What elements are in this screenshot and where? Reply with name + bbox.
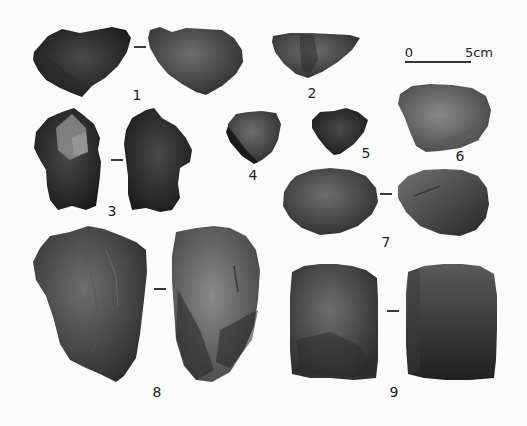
view-separator-8	[154, 288, 166, 290]
artifact-3-view-b	[124, 108, 192, 212]
artifact-7-view-b	[398, 169, 489, 236]
artifact-8-view-a	[33, 226, 147, 382]
view-separator-7	[380, 193, 392, 195]
view-separator-1	[134, 46, 146, 48]
artifact-2	[272, 33, 360, 78]
artifact-6	[398, 84, 491, 152]
artifact-label-2: 2	[308, 86, 317, 100]
view-separator-3	[111, 159, 123, 161]
artifact-8	[33, 226, 260, 382]
scale-start-label: 0	[405, 46, 413, 59]
artifact-4	[226, 111, 281, 164]
artifact-label-8: 8	[153, 385, 162, 399]
artifact-7-view-a	[283, 168, 378, 235]
artifact-label-9: 9	[390, 385, 399, 399]
artifact-photos	[0, 0, 527, 426]
artifact-label-3: 3	[108, 204, 117, 218]
artifact-7	[283, 168, 489, 236]
scale-line	[405, 61, 471, 63]
artifact-label-6: 6	[456, 149, 465, 163]
artifact-5	[312, 108, 368, 155]
scale-end-label: 5cm	[465, 46, 493, 59]
artifact-label-4: 4	[249, 168, 258, 182]
view-separator-9	[387, 310, 399, 312]
artifact-plate: 0 5cm 1 2 3 4 5 6 7 8 9	[0, 0, 527, 426]
artifact-label-7: 7	[382, 235, 391, 249]
artifact-label-5: 5	[362, 146, 371, 160]
artifact-label-1: 1	[133, 88, 142, 102]
artifact-1-view-b	[148, 27, 243, 95]
artifact-9	[290, 264, 497, 380]
